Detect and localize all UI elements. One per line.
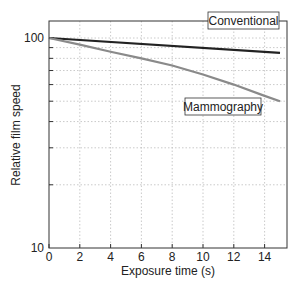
plot-frame [49,21,287,248]
svg-text:14: 14 [258,250,272,264]
svg-text:10: 10 [31,241,45,255]
y-tick-labels: 10100 [24,31,44,255]
svg-text:0: 0 [46,250,53,264]
legend-mammography: Mammography [183,98,263,115]
y-axis-label: Relative film speed [9,84,23,185]
svg-text:2: 2 [76,250,83,264]
x-axis-label: Exposure time (s) [121,264,215,278]
legend-conventional: Conventional [208,12,279,29]
chart: 02468101214 10100 Conventional Mammograp… [0,0,299,290]
svg-text:6: 6 [138,250,145,264]
axis-ticks [49,38,265,248]
grid-lines [49,21,287,248]
svg-text:10: 10 [196,250,210,264]
svg-text:12: 12 [227,250,241,264]
svg-text:8: 8 [169,250,176,264]
svg-text:4: 4 [107,250,114,264]
svg-text:100: 100 [24,31,44,45]
label-conventional: Conventional [208,14,278,28]
x-tick-labels: 02468101214 [46,250,272,264]
label-mammography: Mammography [183,100,263,114]
